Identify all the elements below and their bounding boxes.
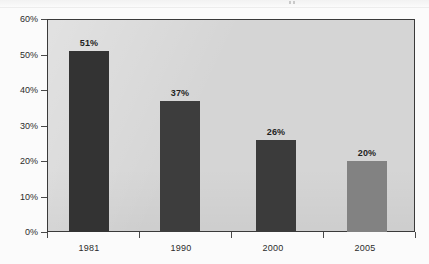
bar-value-label-2005: 20% — [358, 148, 377, 158]
x-tick-label-2005: 2005 — [355, 243, 376, 253]
bar-2000 — [256, 140, 296, 232]
y-tick-mark-20 — [41, 161, 47, 162]
bar-value-label-1990: 37% — [171, 88, 190, 98]
y-tick-label-60: 60% — [20, 14, 38, 24]
y-tick-label-0: 0% — [25, 227, 38, 237]
bar-value-label-1981: 51% — [80, 38, 99, 48]
y-tick-label-40: 40% — [20, 85, 38, 95]
x-tick-label-1990: 1990 — [171, 243, 192, 253]
bar-chart-figure: 60% 50% 40% 30% 20% 10% 0% 51% 37% 26% 2… — [0, 0, 429, 264]
bar-2005 — [347, 161, 387, 232]
x-tick-mark-end — [415, 232, 416, 238]
x-tick-label-2000: 2000 — [263, 243, 284, 253]
y-tick-label-10: 10% — [20, 192, 38, 202]
x-tick-mark-1 — [139, 232, 140, 238]
y-tick-mark-50 — [41, 55, 47, 56]
bar-1981 — [69, 51, 109, 232]
x-tick-mark-start — [47, 232, 48, 238]
y-tick-label-30: 30% — [20, 121, 38, 131]
y-tick-label-50: 50% — [20, 50, 38, 60]
y-tick-mark-40 — [41, 90, 47, 91]
y-tick-label-20: 20% — [20, 156, 38, 166]
x-tick-mark-2 — [231, 232, 232, 238]
y-tick-mark-60 — [41, 19, 47, 20]
y-tick-mark-10 — [41, 197, 47, 198]
x-tick-label-1981: 1981 — [79, 243, 100, 253]
bar-1990 — [160, 101, 200, 232]
x-tick-mark-3 — [323, 232, 324, 238]
bar-value-label-2000: 26% — [267, 127, 286, 137]
y-tick-mark-30 — [41, 126, 47, 127]
y-axis: 60% 50% 40% 30% 20% 10% 0% — [0, 0, 47, 264]
